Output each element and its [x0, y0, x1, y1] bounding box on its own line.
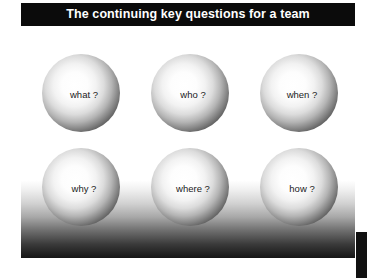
sphere-label-how: how ?: [289, 183, 314, 194]
sphere-label-what: what ?: [70, 89, 98, 100]
sphere-who[interactable]: who ?: [151, 54, 229, 132]
sphere-label-where: where ?: [176, 183, 210, 194]
slide-title-bar: The continuing key questions for a team: [21, 3, 355, 26]
sphere-how[interactable]: how ?: [260, 148, 338, 226]
sphere-why[interactable]: why ?: [42, 148, 120, 226]
slide-content-panel: what ? who ? when ? why ? where ? how ?: [21, 30, 355, 258]
right-edge-strip: [356, 232, 367, 278]
sphere-where[interactable]: where ?: [151, 148, 229, 226]
sphere-what[interactable]: what ?: [42, 54, 120, 132]
sphere-label-who: who ?: [180, 89, 205, 100]
sphere-label-why: why ?: [72, 183, 97, 194]
slide-canvas: The continuing key questions for a team …: [0, 0, 367, 278]
sphere-label-when: when ?: [287, 89, 318, 100]
slide-title: The continuing key questions for a team: [66, 8, 310, 21]
sphere-when[interactable]: when ?: [260, 54, 338, 132]
